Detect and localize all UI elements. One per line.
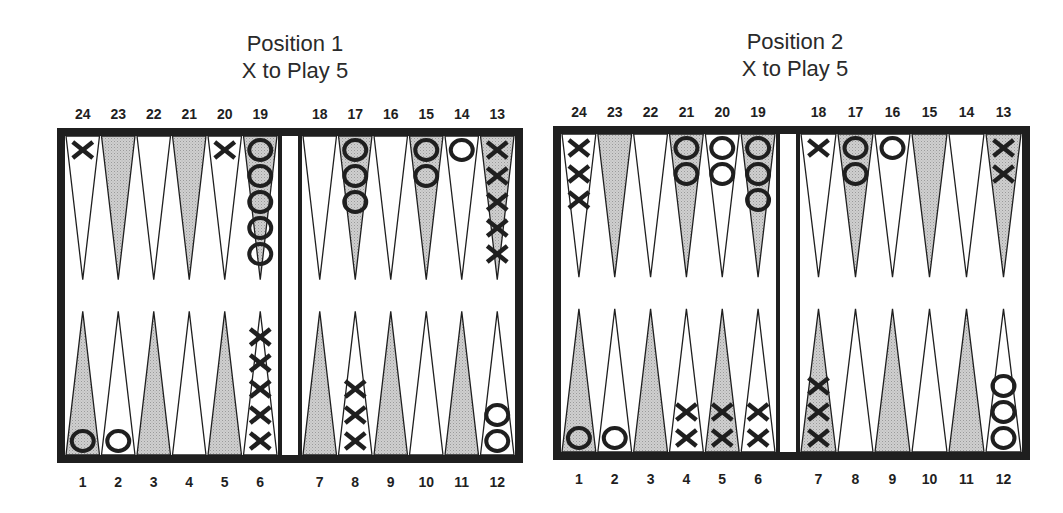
point-label-24: 24: [571, 104, 587, 120]
point-label-11: 11: [959, 471, 974, 487]
point-label-20: 20: [714, 104, 730, 120]
point-label-12: 12: [489, 474, 505, 490]
point-label-12: 12: [996, 471, 1012, 487]
point-label-16: 16: [383, 106, 399, 122]
point-label-15: 15: [418, 106, 434, 122]
point-label-5: 5: [718, 471, 726, 487]
point-label-20: 20: [217, 106, 233, 122]
point-label-10: 10: [418, 474, 434, 490]
point-label-4: 4: [185, 474, 193, 490]
point-label-23: 23: [110, 106, 126, 122]
point-label-13: 13: [996, 104, 1012, 120]
point-label-14: 14: [454, 106, 470, 122]
bar-left-edge: [776, 134, 780, 452]
point-label-8: 8: [351, 474, 359, 490]
point-label-11: 11: [454, 474, 469, 490]
point-label-21: 21: [181, 106, 197, 122]
point-label-18: 18: [811, 104, 827, 120]
point-label-16: 16: [885, 104, 901, 120]
point-label-23: 23: [607, 104, 623, 120]
point-label-22: 22: [146, 106, 162, 122]
point-label-18: 18: [312, 106, 328, 122]
point-label-19: 19: [750, 104, 766, 120]
backgammon-diagrams: 2412322232142051961871781691510141113122…: [0, 0, 1063, 513]
point-label-22: 22: [643, 104, 659, 120]
point-label-7: 7: [815, 471, 823, 487]
point-label-10: 10: [922, 471, 938, 487]
point-label-14: 14: [959, 104, 975, 120]
point-label-4: 4: [683, 471, 691, 487]
board-position-2: 241232223214205196187178169151014111312: [553, 104, 1030, 487]
bar-left-edge: [278, 136, 282, 455]
point-label-21: 21: [679, 104, 695, 120]
point-label-1: 1: [575, 471, 583, 487]
point-label-2: 2: [611, 471, 619, 487]
point-label-24: 24: [75, 106, 91, 122]
point-label-6: 6: [754, 471, 762, 487]
point-label-9: 9: [387, 474, 395, 490]
point-label-13: 13: [489, 106, 505, 122]
board-position-1: 241232223214205196187178169151014111312: [57, 106, 523, 490]
point-label-3: 3: [150, 474, 158, 490]
point-label-8: 8: [852, 471, 860, 487]
point-label-17: 17: [848, 104, 864, 120]
point-label-1: 1: [79, 474, 87, 490]
point-label-5: 5: [221, 474, 229, 490]
point-label-2: 2: [114, 474, 122, 490]
point-label-15: 15: [922, 104, 938, 120]
point-label-17: 17: [347, 106, 363, 122]
point-label-3: 3: [647, 471, 655, 487]
point-label-7: 7: [316, 474, 324, 490]
point-label-9: 9: [889, 471, 897, 487]
bar-right-edge: [796, 134, 800, 452]
point-label-6: 6: [256, 474, 264, 490]
point-label-19: 19: [252, 106, 268, 122]
bar-right-edge: [298, 136, 302, 455]
